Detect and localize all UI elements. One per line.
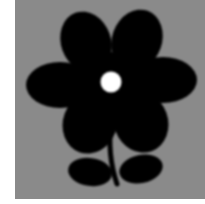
flower-illustration: [15, 0, 205, 199]
flower-svg: [15, 0, 205, 199]
flower-center: [101, 72, 122, 93]
